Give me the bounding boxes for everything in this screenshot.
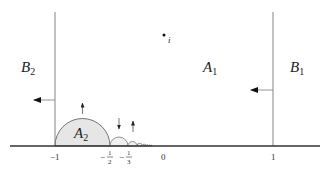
point-i-dot [163,34,166,37]
label-a1: A1 [202,59,217,77]
svg-text:2: 2 [108,158,112,166]
svg-text:1: 1 [127,149,131,157]
modular-domain-diagram: i B2 A1 B1 A2 −1 − 1 2 − 1 3 0 1 [0,0,325,172]
label-b1: B1 [290,59,304,77]
svg-text:1: 1 [108,149,112,157]
point-i-label: i [168,35,171,45]
tick-minus-one: −1 [50,152,60,162]
tick-minus-third: − 1 3 [119,149,132,166]
svg-text:−: − [119,152,124,162]
small-semicircles [110,137,152,146]
diagram-canvas: i B2 A1 B1 A2 −1 − 1 2 − 1 3 0 1 [0,0,325,172]
tick-zero: 0 [161,152,166,162]
svg-text:3: 3 [127,158,131,166]
svg-text:−: − [100,152,105,162]
label-b2: B2 [21,59,35,77]
tick-minus-half: − 1 2 [100,149,113,166]
tick-one: 1 [271,152,276,162]
